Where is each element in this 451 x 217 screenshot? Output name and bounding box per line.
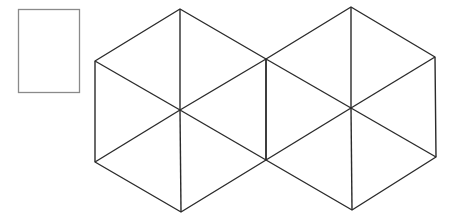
spoke-line: [95, 61, 180, 110]
spoke-line: [351, 57, 435, 108]
hexagon-group: [95, 7, 436, 212]
empty-rectangle: [19, 10, 80, 93]
spoke-line: [266, 108, 351, 160]
spoke-line: [180, 59, 266, 110]
left-hexagon: [95, 9, 266, 212]
spoke-line: [95, 110, 180, 162]
spoke-line: [180, 110, 181, 212]
diagram-canvas: [0, 0, 451, 217]
right-hexagon: [266, 7, 436, 210]
spoke-line: [351, 108, 436, 157]
spoke-line: [351, 108, 352, 210]
spoke-line: [266, 59, 351, 108]
spoke-line: [180, 110, 266, 160]
